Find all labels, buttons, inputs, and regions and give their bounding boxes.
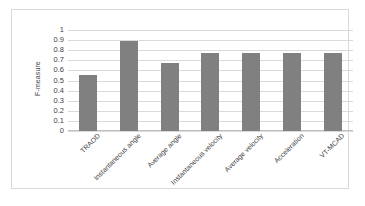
bar-slot	[68, 30, 109, 131]
chart-figure: F-measure 10.90.80.70.60.50.40.30.20.10 …	[0, 0, 365, 206]
x-axis-tick-labels: TRAODInstantaneous angleAverage angleIns…	[68, 132, 353, 202]
plot-area	[68, 30, 353, 131]
y-axis-tick-label: 0.1	[54, 117, 64, 125]
bar[interactable]	[242, 53, 260, 131]
x-axis-tick-label: Average angle	[100, 132, 183, 206]
bar[interactable]	[161, 63, 179, 131]
chart-frame: F-measure 10.90.80.70.60.50.40.30.20.10 …	[11, 9, 349, 189]
y-axis-tick-label: 0.3	[54, 97, 64, 105]
y-axis-tick-label: 0.6	[54, 66, 64, 74]
bar[interactable]	[283, 53, 301, 131]
bar[interactable]	[324, 53, 342, 131]
bar-series	[68, 30, 353, 131]
y-axis-title-label: F-measure	[34, 61, 41, 96]
y-axis-tick-label: 0.2	[54, 107, 64, 115]
bar[interactable]	[201, 53, 219, 131]
y-axis-tick-label: 0.4	[54, 87, 64, 95]
y-axis-tick-label: 1	[60, 26, 64, 34]
bar-slot	[149, 30, 190, 131]
x-axis-tick-label: TRAOD	[76, 132, 101, 157]
bar-slot	[231, 30, 272, 131]
bar[interactable]	[120, 41, 138, 131]
y-axis-tick-label: 0.8	[54, 46, 64, 54]
y-axis-title: F-measure	[30, 28, 44, 128]
bar-slot	[272, 30, 313, 131]
bar[interactable]	[79, 75, 97, 131]
bar-slot	[109, 30, 150, 131]
y-axis-tick-label: 0.9	[54, 36, 64, 44]
y-axis-tick-labels: 10.90.80.70.60.50.40.30.20.10	[44, 26, 64, 131]
y-axis-tick-label: 0	[60, 127, 64, 135]
y-axis-tick-label: 0.7	[54, 56, 64, 64]
y-axis-tick-label: 0.5	[54, 77, 64, 85]
bar-slot	[190, 30, 231, 131]
bar-slot	[312, 30, 353, 131]
